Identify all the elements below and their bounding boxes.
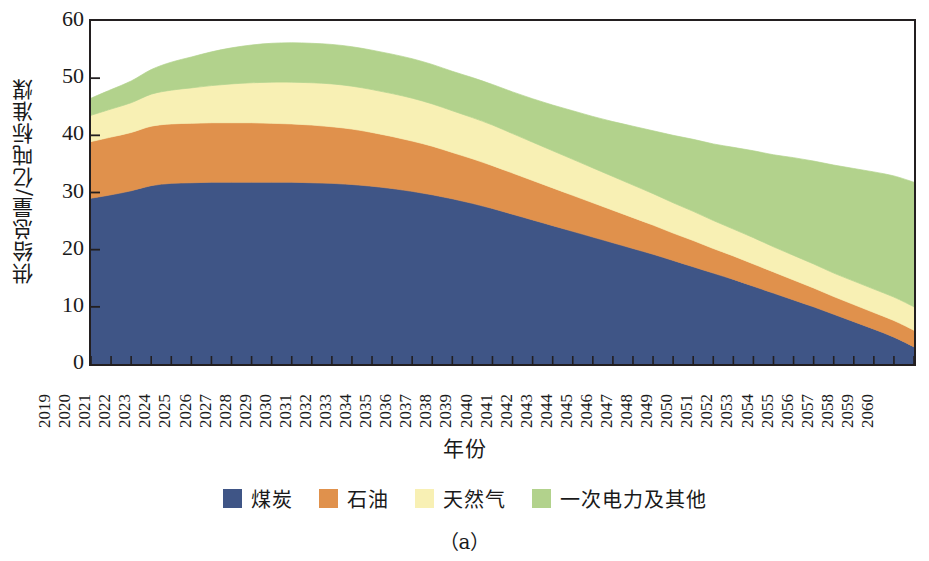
legend-item[interactable]: 一次电力及其他 (532, 484, 707, 513)
legend-label: 一次电力及其他 (560, 484, 707, 513)
figure-caption-text: （a） (439, 530, 491, 554)
stacked-area-plot (91, 21, 914, 364)
legend-swatch-icon (223, 489, 242, 508)
legend-item[interactable]: 煤炭 (223, 484, 293, 513)
legend-swatch-icon (415, 489, 434, 508)
y-tick-label: 40 (42, 122, 84, 144)
legend-label: 天然气 (443, 484, 506, 513)
y-tick-label: 0 (42, 351, 84, 373)
legend: 煤炭石油天然气一次电力及其他 (0, 484, 929, 513)
y-tick-label: 60 (42, 8, 84, 30)
x-axis-title: 年份 (0, 432, 929, 462)
legend-item[interactable]: 石油 (319, 484, 389, 513)
x-axis-title-text: 年份 (443, 437, 487, 461)
legend-item[interactable]: 天然气 (415, 484, 506, 513)
legend-swatch-icon (319, 489, 338, 508)
y-tick-label: 30 (42, 180, 84, 202)
legend-label: 石油 (347, 484, 389, 513)
legend-label: 煤炭 (251, 484, 293, 513)
y-tick-label: 10 (42, 294, 84, 316)
y-tick-label: 50 (42, 65, 84, 87)
plot-area (89, 19, 916, 366)
y-tick-label: 20 (42, 237, 84, 259)
stacked-area-figure: 供给总量/亿吨标准煤 0102030405060 201920202021202… (0, 0, 929, 561)
figure-caption: （a） (0, 526, 929, 555)
x-tick-label: 2060 (859, 394, 921, 428)
y-axis-title-text: 供给总量/亿吨标准煤 (9, 78, 39, 284)
x-axis-tick-labels: 2019202020212022202320242025202620272028… (89, 366, 912, 428)
legend-swatch-icon (532, 489, 551, 508)
y-axis-tick-labels: 0102030405060 (36, 0, 84, 362)
